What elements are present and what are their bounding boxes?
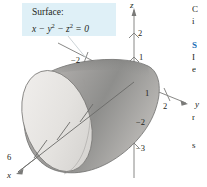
equation-op1: − bbox=[39, 24, 45, 34]
callout-equation: x − y2 − z2 = 0 bbox=[32, 24, 89, 34]
z-tick-neg3: −3 bbox=[136, 143, 145, 153]
surface-figure: Surface: x − y2 − z2 = 0 z y x 2 1 −2 −3… bbox=[0, 0, 207, 187]
equation-exp3: 2 bbox=[70, 22, 73, 29]
equation-op2: − bbox=[57, 24, 63, 34]
equation-exp2: 2 bbox=[52, 22, 55, 29]
z-tick-2: 2 bbox=[138, 28, 142, 38]
y-axis-arrowhead bbox=[181, 100, 189, 106]
equation-rhs: = 0 bbox=[75, 24, 89, 34]
page-text-column: CiSIers bbox=[190, 0, 207, 187]
x-tick-6: 6 bbox=[7, 152, 11, 162]
page-text-line: e bbox=[192, 64, 196, 74]
page-text-line: C bbox=[192, 4, 198, 14]
y-tick-2: 2 bbox=[163, 101, 167, 111]
y-tick-1: 1 bbox=[145, 88, 149, 98]
x-axis-label: x bbox=[7, 170, 11, 180]
surface-callout-text: Surface: x − y2 − z2 = 0 bbox=[32, 5, 89, 36]
y-tick-neg2: −2 bbox=[71, 55, 80, 65]
x-axis-arrowhead bbox=[16, 169, 24, 175]
equation-lhs: x bbox=[32, 24, 36, 34]
callout-title: Surface: bbox=[32, 7, 64, 17]
page-text-line: I bbox=[192, 52, 195, 62]
z-axis-label: z bbox=[130, 0, 134, 10]
z-tick-1: 1 bbox=[139, 52, 143, 62]
page-text-line: s bbox=[192, 140, 196, 150]
page-text-line: r bbox=[192, 112, 195, 122]
page-text-line: i bbox=[192, 16, 195, 26]
page-text-line: S bbox=[192, 40, 197, 50]
z-tick-neg2: −2 bbox=[136, 117, 145, 127]
